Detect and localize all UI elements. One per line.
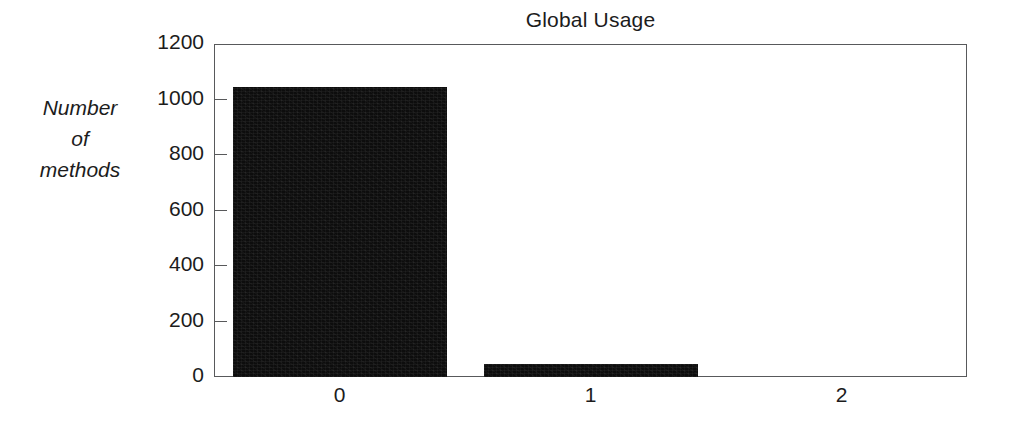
bars-layer bbox=[214, 44, 967, 377]
y-axis-title-line-1: Number bbox=[10, 92, 150, 123]
x-axis-tick-label: 1 bbox=[531, 383, 651, 407]
y-axis-title-line-2: of bbox=[10, 123, 150, 154]
y-axis-tick-label: 1000 bbox=[142, 86, 204, 110]
y-axis-title-line-3: methods bbox=[10, 154, 150, 185]
y-axis-tick-labels: 020040060080010001200 bbox=[140, 0, 204, 431]
x-axis-tick-label: 0 bbox=[280, 383, 400, 407]
y-axis-tick-label: 600 bbox=[142, 197, 204, 221]
y-axis-tick-label: 800 bbox=[142, 141, 204, 165]
x-axis-tick-labels: 012 bbox=[214, 383, 967, 417]
y-axis-tick-label: 200 bbox=[142, 308, 204, 332]
y-axis-title: Number of methods bbox=[10, 92, 150, 185]
bar bbox=[233, 87, 447, 377]
x-axis-tick-label: 2 bbox=[782, 383, 902, 407]
bar bbox=[484, 364, 698, 377]
y-axis-tick-label: 400 bbox=[142, 252, 204, 276]
chart-figure: Global Usage Number of methods 020040060… bbox=[0, 0, 1017, 431]
chart-title: Global Usage bbox=[214, 8, 967, 32]
y-axis-tick-label: 1200 bbox=[142, 30, 204, 54]
y-axis-tick-label: 0 bbox=[142, 363, 204, 387]
